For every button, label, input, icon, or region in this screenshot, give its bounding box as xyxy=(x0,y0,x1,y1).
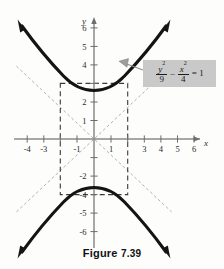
minus-operator: – xyxy=(170,69,175,78)
hyperbola-figure: -4 -3 -1 1 3 4 5 6 6 5 4 2 1 -2 -4 -5 -6… xyxy=(0,0,224,269)
x-tick-label-3: 3 xyxy=(142,144,146,154)
y-tick-label--2: -2 xyxy=(79,171,86,181)
denominator-4: 4 xyxy=(179,75,188,84)
x-tick-label-4: 4 xyxy=(159,144,164,154)
y-tick-label-2: 2 xyxy=(82,97,86,107)
y-squared-over-9: y2 9 xyxy=(156,63,167,84)
plot-canvas: -4 -3 -1 1 3 4 5 6 6 5 4 2 1 -2 -4 -5 -6… xyxy=(0,0,224,269)
hyperbola-equation: y2 9 – x2 4 = 1 xyxy=(155,63,203,84)
x-tick-label--4: -4 xyxy=(24,144,32,154)
x-tick-label--1: -1 xyxy=(73,144,80,154)
x-squared-numerator: x2 xyxy=(178,63,189,74)
equation-callout-box: y2 9 – x2 4 = 1 xyxy=(143,60,216,87)
x-tick-label-6: 6 xyxy=(192,144,196,154)
y-tick-label-5: 5 xyxy=(82,42,86,52)
equals-one: = 1 xyxy=(192,69,204,78)
caption-number: 7.39 xyxy=(121,248,141,259)
x-axis-label: x xyxy=(203,138,208,148)
x-axis xyxy=(14,135,200,142)
y-tick-label-1: 1 xyxy=(82,116,86,126)
denominator-9: 9 xyxy=(158,75,167,84)
y-tick-label--6: -6 xyxy=(79,227,86,237)
figure-caption: Figure 7.39 xyxy=(0,247,224,259)
y-axis xyxy=(90,17,97,248)
y-axis-label: y xyxy=(81,16,86,26)
y-tick-label--4: -4 xyxy=(79,190,87,200)
y-squared-numerator: y2 xyxy=(156,63,167,74)
x-tick-label-1: 1 xyxy=(109,144,113,154)
y-tick-label-4: 4 xyxy=(82,60,87,70)
x-tick-label--3: -3 xyxy=(40,144,47,154)
y-tick-label--5: -5 xyxy=(79,208,86,218)
x-squared-over-4: x2 4 xyxy=(178,63,189,84)
x-tick-label-5: 5 xyxy=(175,144,179,154)
caption-label: Figure xyxy=(83,247,118,259)
